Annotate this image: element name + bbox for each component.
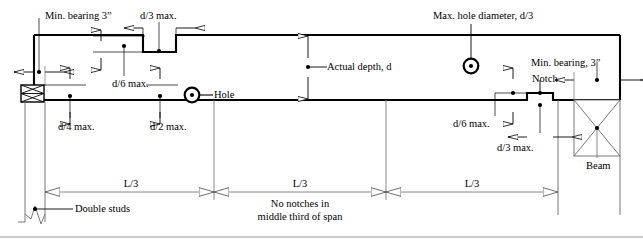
label-no-notches-line2: middle third of span [230, 211, 370, 223]
label-beam: Beam [586, 160, 611, 172]
double-studs [18, 102, 45, 224]
label-d4-max: d/4 max. [58, 121, 95, 133]
label-notch: Notch [532, 73, 558, 85]
label-d3-max-top: d/3 max. [140, 10, 177, 22]
min-bearing-left-dim [14, 18, 64, 86]
label-d6-max-top: d/6 max. [112, 78, 149, 90]
label-min-bearing-left: Min. bearing 3ˮ [45, 10, 112, 22]
label-max-hole-diameter: Max. hole diameter, d/3 [433, 10, 533, 22]
label-d3-max-bottom: d/3 max. [497, 142, 534, 154]
max-hole-symbol [464, 24, 479, 73]
label-min-bearing-right: Min. bearing, 3ˮ [531, 57, 600, 69]
label-span-left: L/3 [118, 178, 144, 190]
label-d2-max: d/2 max. [150, 121, 187, 133]
end-notch-length-left-dim [146, 68, 178, 124]
label-d6-max-bottom: d/6 max. [453, 118, 490, 130]
label-span-right: L/3 [459, 178, 485, 190]
label-double-studs: Double studs [75, 203, 130, 215]
label-actual-depth: Actual depth, d [327, 61, 391, 73]
label-hole: Hole [214, 89, 234, 101]
end-notch-length-right-dim [508, 103, 572, 137]
double-studs-leader [33, 207, 73, 211]
beam-section-box [558, 100, 620, 215]
end-notch-depth-right-dim [495, 68, 534, 124]
left-bearing-block [21, 85, 44, 102]
label-no-notches-line1: No notches in [230, 198, 370, 210]
label-span-mid: L/3 [287, 178, 313, 190]
top-notch-depth-dim [93, 30, 145, 76]
figure-canvas: Min. bearing 3ˮ d/3 max. Max. hole diame… [0, 0, 643, 243]
actual-depth-dim [306, 36, 327, 99]
end-notch-depth-left-dim [44, 68, 86, 124]
top-notch-length-dim [124, 22, 195, 53]
